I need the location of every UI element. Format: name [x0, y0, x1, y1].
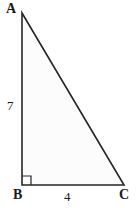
- geometry-figure: A B C 7 4: [0, 0, 136, 208]
- vertex-label-a: A: [6, 2, 16, 16]
- triangle-diagram: [0, 0, 136, 208]
- vertex-label-b: B: [13, 188, 22, 202]
- vertex-label-c: C: [119, 188, 129, 202]
- side-label-ab: 7: [7, 99, 14, 112]
- triangle-shape: [22, 13, 124, 185]
- side-label-bc: 4: [64, 190, 71, 203]
